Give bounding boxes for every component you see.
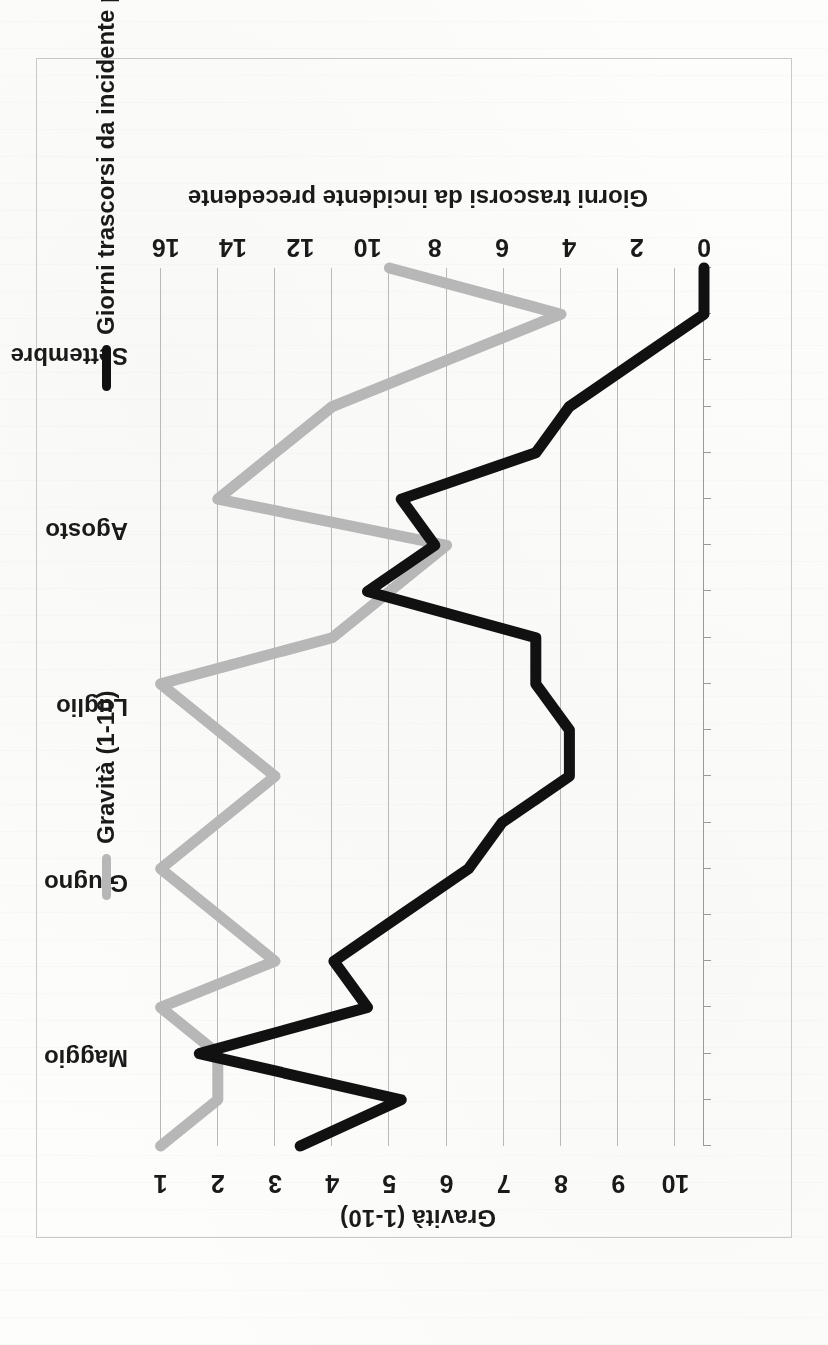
giorni-tick-label: 4 — [562, 233, 576, 262]
gravita-tick-label: 1 — [154, 1169, 168, 1198]
legend-label: Gravità (1-10) — [92, 691, 120, 844]
scanned-page: Gravità (1-10) 10987654321 MaggioGiugnoL… — [0, 0, 828, 1345]
time-axis-tick — [704, 1145, 711, 1146]
time-axis-tick — [704, 822, 711, 823]
giorni-tick-label: 2 — [630, 233, 644, 262]
time-axis-tick — [704, 729, 711, 730]
giorni-tick-label: 12 — [286, 233, 314, 262]
gravita-tick-label: 7 — [497, 1169, 511, 1198]
gravita-tick-labels: 10987654321 — [132, 1152, 704, 1198]
time-axis-tick — [704, 775, 711, 776]
giorni-tick-label: 8 — [428, 233, 442, 262]
series-lines — [132, 268, 704, 1146]
gravita-tick-label: 3 — [268, 1169, 282, 1198]
giorni-line — [199, 268, 704, 1146]
giorni-axis-title: Giorni trascorsi da incidente precedente — [104, 184, 732, 212]
giorni-tick-label: 0 — [697, 233, 711, 262]
gravita-tick-label: 5 — [382, 1169, 396, 1198]
time-axis-tick — [704, 637, 711, 638]
legend-swatch — [102, 345, 111, 391]
time-axis-tick — [704, 1053, 711, 1054]
gravita-tick-label: 4 — [325, 1169, 339, 1198]
time-axis-tick — [704, 960, 711, 961]
gravita-tick-label: 8 — [554, 1169, 568, 1198]
chart-legend: Giorni trascorsi da incidente precedente… — [0, 268, 92, 1146]
time-axis-tick — [704, 406, 711, 407]
giorni-tick-labels: 0246810121416 — [132, 218, 704, 262]
gravita-tick-label: 9 — [611, 1169, 625, 1198]
giorni-tick-label: 16 — [152, 233, 180, 262]
gravita-axis-title: Gravità (1-10) — [132, 1204, 704, 1232]
gravita-tick-label: 2 — [211, 1169, 225, 1198]
time-axis-tick — [704, 590, 711, 591]
giorni-tick-label: 6 — [495, 233, 509, 262]
time-axis-tick — [704, 452, 711, 453]
gravita-tick-label: 10 — [662, 1169, 690, 1198]
time-axis-tick — [704, 683, 711, 684]
plot-area — [132, 268, 704, 1146]
legend-item: Gravità (1-10) — [92, 691, 120, 900]
legend-swatch — [102, 854, 111, 900]
time-axis-tick — [704, 498, 711, 499]
giorni-tick-label: 14 — [219, 233, 247, 262]
time-axis-tick — [704, 544, 711, 545]
chart-rotated-container: Gravità (1-10) 10987654321 MaggioGiugnoL… — [36, 58, 792, 1238]
legend-label: Giorni trascorsi da incidente precedente — [92, 0, 120, 335]
time-axis-tick — [704, 1099, 711, 1100]
time-axis-tick — [704, 359, 711, 360]
giorni-tick-label: 10 — [354, 233, 382, 262]
gravita-tick-label: 6 — [440, 1169, 454, 1198]
time-axis-tick — [704, 1006, 711, 1007]
time-axis-tick — [704, 914, 711, 915]
time-axis-tick — [704, 868, 711, 869]
